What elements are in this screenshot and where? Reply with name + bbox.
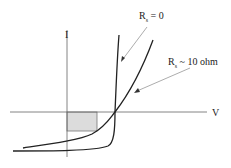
y-axis-label: I bbox=[65, 29, 68, 40]
label-rs-0: Rs = 0 bbox=[139, 10, 164, 23]
arrow-rs-10-ohm bbox=[137, 68, 190, 91]
arrow-rs-0 bbox=[123, 27, 147, 59]
arrowhead-rs-10-ohm bbox=[134, 88, 140, 93]
curve-rs-0 bbox=[13, 35, 119, 151]
x-axis-label: V bbox=[212, 107, 220, 118]
iv-diagram: I V Rs = 0 Rs ~ 10 ohm bbox=[0, 0, 231, 168]
curve-rs-10-ohm bbox=[23, 40, 153, 148]
label-rs-10-ohm: Rs ~ 10 ohm bbox=[168, 56, 218, 69]
max-power-rectangle bbox=[67, 112, 97, 131]
